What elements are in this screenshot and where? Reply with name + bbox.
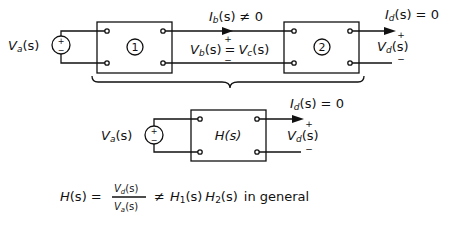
source-label: Va(s) bbox=[101, 128, 132, 144]
block-2-label: 2 bbox=[319, 41, 326, 54]
ib-label: Ib(s) ≠ 0 bbox=[209, 9, 263, 25]
equation-denominator: Va(s) bbox=[114, 201, 138, 214]
equation-lhs: H(s) = bbox=[60, 189, 102, 204]
block-h-label: H(s) bbox=[215, 128, 242, 143]
id-label: Id(s) = 0 bbox=[385, 7, 439, 23]
source-label: Va(s) bbox=[8, 38, 39, 54]
block-1-label: 1 bbox=[132, 41, 139, 54]
vd-label: Vd(s) bbox=[377, 39, 409, 55]
cascade-diagram: + − + − Va(s) 1 2 Ib(s) ≠ 0 + Vb(s)=Vc(s… bbox=[0, 0, 456, 225]
plus-sign: + bbox=[58, 37, 65, 46]
brace-icon bbox=[92, 76, 364, 88]
equation-rhs: ≠H1(s)H2(s)in general bbox=[154, 189, 309, 205]
wire bbox=[154, 119, 200, 126]
plus-sign: + bbox=[151, 127, 158, 136]
current-arrow-icon bbox=[384, 27, 396, 35]
minus-sign: − bbox=[397, 54, 405, 64]
minus-sign: − bbox=[151, 136, 158, 145]
wire bbox=[154, 144, 200, 152]
minus-sign: − bbox=[58, 46, 65, 55]
current-arrow-icon bbox=[292, 115, 304, 123]
minus-sign: − bbox=[305, 144, 313, 154]
equation-numerator: Vd(s) bbox=[114, 183, 138, 196]
wire bbox=[61, 54, 107, 63]
vd-label: Vd(s) bbox=[287, 128, 319, 144]
wire bbox=[61, 31, 107, 36]
minus-sign: − bbox=[224, 55, 232, 65]
id-label: Id(s) = 0 bbox=[290, 96, 344, 112]
